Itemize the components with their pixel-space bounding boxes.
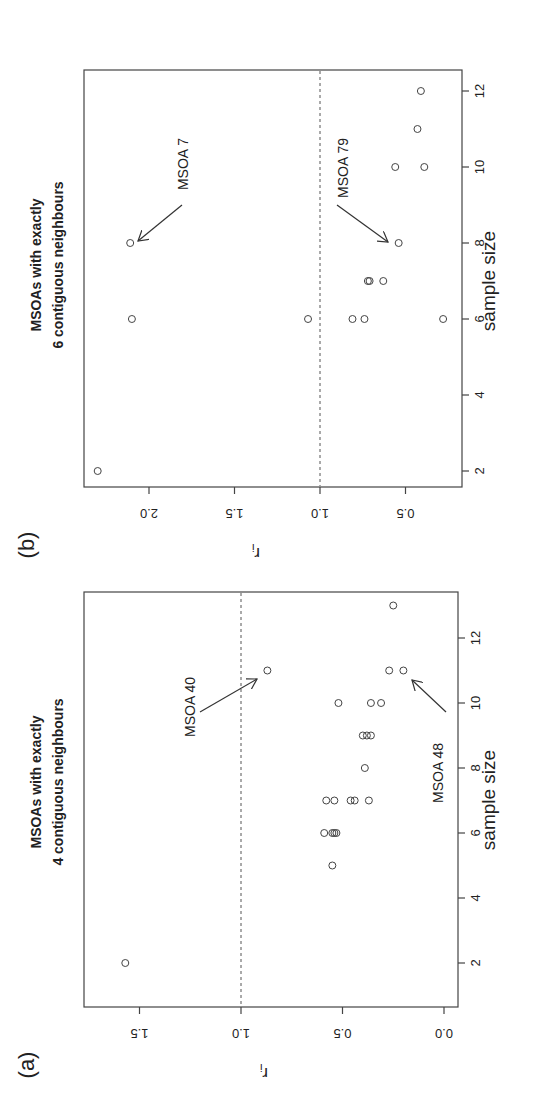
figure: 0.51.01.52.0 24681012 MSOA 7 MSOA 79 MSO…: [0, 0, 548, 1120]
tick-label: 12: [468, 631, 483, 645]
annotation-msoa-40: MSOA 40: [182, 677, 257, 737]
tick-label: 2.0: [140, 506, 158, 521]
data-point: [359, 732, 366, 739]
svg-text:ri: ri: [252, 542, 260, 563]
data-point: [363, 732, 370, 739]
data-point: [395, 240, 402, 247]
data-point: [366, 278, 373, 285]
y-axis-label: ri: [260, 1062, 268, 1083]
tick-label: 10: [472, 160, 487, 174]
data-point: [365, 797, 372, 804]
data-point: [321, 830, 328, 837]
title-line-2: 6 contiguous neighbours: [50, 181, 66, 348]
data-point: [323, 797, 330, 804]
panel-title: MSOAs with exactly 4 contiguous neighbou…: [28, 698, 66, 865]
title-line-1: MSOAs with exactly: [28, 198, 44, 331]
tick-label: 4: [468, 894, 483, 901]
panel-b: 0.51.01.52.0 24681012 MSOA 7 MSOA 79 MSO…: [14, 70, 499, 563]
svg-text:ri: ri: [260, 1062, 268, 1083]
tick-label: 1.0: [311, 506, 329, 521]
data-point: [94, 468, 101, 475]
data-point: [335, 700, 342, 707]
tick-label: 2: [472, 467, 487, 474]
tick-label: 1.5: [130, 1026, 148, 1041]
data-point: [264, 667, 271, 674]
data-point: [414, 126, 421, 133]
y-axis-label-subscript: i: [260, 1062, 262, 1074]
arrow-icon: [337, 205, 388, 242]
x-axis-label: sample size: [478, 231, 499, 331]
data-point: [421, 164, 428, 171]
tick-label: 10: [468, 696, 483, 710]
data-point: [400, 667, 407, 674]
data-point: [367, 732, 374, 739]
tick-label: 1.5: [225, 506, 243, 521]
annotation-msoa-7: MSOA 7: [138, 138, 191, 241]
panel-a: 0.00.51.01.5 24681012 MSOA 40 MSOA 48 MS…: [14, 592, 499, 1083]
plot-frame: [84, 70, 462, 487]
data-point: [361, 316, 368, 323]
annotation-msoa-48: MSOA 48: [412, 680, 446, 803]
data-point: [390, 602, 397, 609]
panel-title: MSOAs with exactly 6 contiguous neighbou…: [28, 181, 66, 348]
r-axis-ticks: 0.51.01.52.0: [140, 487, 415, 521]
data-point: [128, 316, 135, 323]
tick-label: 0.5: [396, 506, 414, 521]
annotation-msoa-79: MSOA 79: [335, 138, 388, 242]
title-line-2: 4 contiguous neighbours: [50, 698, 66, 865]
tick-label: 0.0: [435, 1026, 453, 1041]
tick-label: 12: [472, 84, 487, 98]
data-point: [329, 862, 336, 869]
panel-label: (b): [14, 532, 39, 559]
data-point: [349, 316, 356, 323]
annotation-label: MSOA 7: [175, 138, 191, 190]
data-points: [122, 602, 407, 967]
data-point: [364, 278, 371, 285]
arrow-icon: [138, 205, 182, 241]
arrow-icon: [412, 680, 446, 712]
annotation-label: MSOA 40: [182, 677, 198, 737]
y-axis-label: ri: [252, 542, 260, 563]
data-point: [122, 960, 129, 967]
tick-label: 4: [472, 391, 487, 398]
data-point: [378, 700, 385, 707]
data-point: [305, 316, 312, 323]
tick-label: 1.0: [232, 1026, 250, 1041]
data-point: [361, 765, 368, 772]
title-line-1: MSOAs with exactly: [28, 715, 44, 848]
data-point: [417, 88, 424, 95]
arrow-icon: [200, 679, 257, 712]
annotation-label: MSOA 48: [430, 743, 446, 803]
r-axis-ticks: 0.00.51.01.5: [130, 1007, 453, 1041]
plot-frame: [84, 592, 458, 1007]
panel-label: (a): [14, 1052, 39, 1079]
x-axis-label: sample size: [478, 750, 499, 850]
data-point: [127, 240, 134, 247]
data-point: [440, 316, 447, 323]
data-point: [392, 164, 399, 171]
figure-canvas: 0.51.01.52.0 24681012 MSOA 7 MSOA 79 MSO…: [0, 0, 548, 1120]
data-point: [347, 797, 354, 804]
data-point: [367, 700, 374, 707]
data-point: [351, 797, 358, 804]
data-points: [94, 88, 446, 475]
data-point: [380, 278, 387, 285]
y-axis-label-subscript: i: [252, 542, 254, 554]
tick-label: 0.5: [333, 1026, 351, 1041]
data-point: [386, 667, 393, 674]
tick-label: 2: [468, 959, 483, 966]
data-point: [331, 797, 338, 804]
annotation-label: MSOA 79: [335, 138, 351, 198]
